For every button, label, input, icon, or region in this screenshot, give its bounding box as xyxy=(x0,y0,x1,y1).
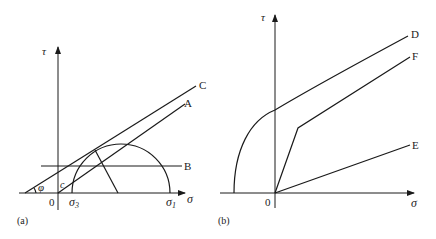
panel-a: τ σ 0 σ3 σ1 φ c C A B (a) xyxy=(17,45,206,227)
figure: τ σ 0 σ3 σ1 φ c C A B (a) τ σ 0 D F E (b… xyxy=(0,0,436,239)
line-b-label: B xyxy=(184,160,191,172)
sigma3-label: σ3 xyxy=(69,195,79,210)
line-f-label: F xyxy=(412,50,418,62)
radius-line xyxy=(95,150,118,193)
phi-label: φ xyxy=(38,181,44,193)
c-label: c xyxy=(60,179,65,190)
caption-b: (b) xyxy=(218,215,230,227)
curve-d-label: D xyxy=(411,28,419,40)
sigma-label-a: σ xyxy=(187,192,194,206)
curve-d xyxy=(234,36,408,193)
tau-label-b: τ xyxy=(261,11,266,23)
line-c xyxy=(25,86,196,193)
line-e xyxy=(275,145,410,193)
tau-label-a: τ xyxy=(42,45,47,57)
line-e-label: E xyxy=(412,139,419,151)
line-f xyxy=(275,57,410,193)
origin-label-a: 0 xyxy=(49,196,55,208)
phi-arc xyxy=(34,188,36,193)
line-a-label: A xyxy=(184,97,192,109)
line-c-label: C xyxy=(199,79,206,91)
sigma-label-b: σ xyxy=(411,196,418,210)
sigma1-label: σ1 xyxy=(166,195,176,210)
caption-a: (a) xyxy=(17,215,28,227)
line-a xyxy=(58,104,185,193)
mohr-circle xyxy=(72,144,170,193)
panel-b: τ σ 0 D F E (b) xyxy=(218,11,419,227)
origin-label-b: 0 xyxy=(265,196,271,208)
